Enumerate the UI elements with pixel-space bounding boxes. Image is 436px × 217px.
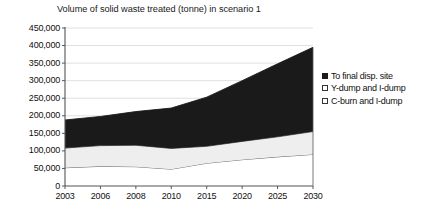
y-axis-tick-label: 100,000 — [12, 146, 60, 155]
plot-area — [0, 0, 436, 217]
legend-item[interactable]: To final disp. site — [322, 70, 434, 82]
legend-swatch-y-dump-and-i-dump — [322, 85, 328, 91]
y-axis-tick-label: 450,000 — [12, 24, 60, 33]
y-axis-tick-label: 200,000 — [12, 111, 60, 120]
legend-item[interactable]: Y-dump and I-dump — [322, 83, 434, 95]
y-axis-tick-label: 400,000 — [12, 41, 60, 50]
legend-label: Y-dump and I-dump — [331, 83, 405, 93]
y-axis-tick-label: 50,000 — [12, 164, 60, 173]
x-axis-tick-label: 2008 — [116, 192, 156, 201]
x-axis-tick-label: 2015 — [187, 192, 227, 201]
x-axis-tick-label: 2020 — [222, 192, 262, 201]
y-axis-tick-label: 0 — [12, 182, 60, 191]
legend-label: To final disp. site — [331, 71, 393, 81]
legend-label: C-burn and I-dump — [331, 96, 402, 106]
x-axis-tick-label: 2010 — [151, 192, 191, 201]
y-axis-tick-label: 250,000 — [12, 94, 60, 103]
chart-figure: Volume of solid waste treated (tonne) in… — [0, 0, 436, 217]
series-bands — [65, 47, 313, 186]
y-axis-tick-label: 150,000 — [12, 129, 60, 138]
chart-legend: To final disp. site Y-dump and I-dump C-… — [322, 70, 434, 108]
x-axis-tick-label: 2030 — [293, 192, 333, 201]
x-axis-tick-label: 2003 — [45, 192, 85, 201]
x-axis-tick-label: 2006 — [80, 192, 120, 201]
x-axis-tick-label: 2025 — [258, 192, 298, 201]
legend-item[interactable]: C-burn and I-dump — [322, 95, 434, 107]
legend-swatch-c-burn-and-i-dump — [322, 98, 328, 104]
legend-swatch-to-final-disp-site — [322, 73, 328, 79]
y-axis-tick-label: 300,000 — [12, 76, 60, 85]
y-axis-tick-label: 350,000 — [12, 59, 60, 68]
